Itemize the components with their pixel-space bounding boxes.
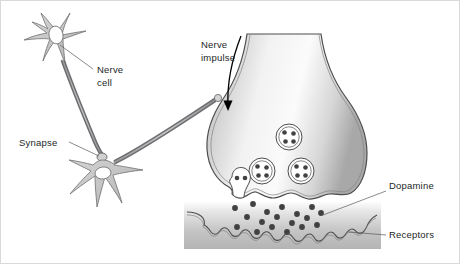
label-nerve-impulse-line1: Nerve [201, 39, 227, 50]
figure-root: Nerve cell Synapse [0, 0, 460, 264]
granule [291, 139, 296, 144]
granule [282, 130, 287, 135]
axon-outline-right [65, 61, 104, 155]
label-nerve-cell-line1: Nerve [97, 64, 123, 75]
dopamine-dot [244, 214, 250, 220]
granule [303, 165, 308, 170]
dopamine-dot [269, 224, 275, 230]
granule [243, 176, 248, 181]
granule [303, 173, 308, 178]
dopamine-dot [299, 224, 305, 230]
dopamine-dot [294, 211, 300, 217]
dopamine-dot [279, 204, 285, 210]
presynaptic-neuron [24, 13, 86, 63]
granule [283, 139, 288, 144]
label-dopamine: Dopamine [389, 180, 434, 191]
dopamine-dot [314, 222, 320, 228]
vesicle-right [288, 158, 314, 184]
vesicle-left [249, 158, 275, 184]
dopamine-dot [254, 229, 260, 235]
dopamine-dot [289, 220, 295, 226]
granule [264, 165, 269, 170]
granule [255, 164, 260, 169]
granule [294, 164, 299, 169]
granule [235, 176, 240, 181]
granule [256, 173, 261, 178]
label-synapse: Synapse [19, 137, 57, 148]
axon-terminal-knob [214, 94, 221, 101]
dopamine-dot [232, 205, 238, 211]
granule [291, 131, 296, 136]
granule [295, 173, 300, 178]
dopamine-dot [234, 224, 240, 230]
label-receptors: Receptors [389, 229, 434, 240]
dopamine-dot [304, 215, 310, 221]
dopamine-dot [250, 201, 256, 207]
label-nerve-cell-line2: cell [97, 77, 112, 88]
synapse-diagram: Nerve cell Synapse [1, 1, 460, 264]
dopamine-dot [309, 204, 315, 210]
vesicle-top [276, 124, 302, 150]
granule [264, 173, 269, 178]
label-nerve-impulse-line2: impulse [201, 52, 235, 63]
axon-to-detail-outline-top [114, 99, 214, 161]
dopamine-dot [264, 209, 270, 215]
dopamine-dot [274, 214, 280, 220]
detail-panel: Nerve impulse Dopamine Receptors [184, 34, 434, 249]
overview-panel: Nerve cell Synapse [19, 13, 222, 207]
dopamine-dot [259, 219, 265, 225]
